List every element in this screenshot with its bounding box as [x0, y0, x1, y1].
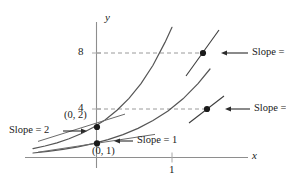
- curve-2exp: [33, 27, 172, 148]
- point-marker-slope-8: [200, 50, 206, 56]
- y-axis-label: y: [105, 12, 110, 23]
- annotation-slope-1: Slope = 1: [137, 135, 177, 146]
- leader-arrow-slope-4: [225, 107, 250, 112]
- point-marker-slope-4: [204, 106, 210, 112]
- plot-canvas: [0, 0, 286, 182]
- annotation-slope-4: Slope = 4: [254, 103, 286, 114]
- point-label-0-2: (0, 2): [64, 110, 87, 121]
- leader-arrow-slope-8: [221, 51, 248, 56]
- point-marker-0-2: [94, 124, 100, 130]
- annotation-slope-2: Slope = 2: [9, 125, 49, 136]
- exponential-graph-figure: y x 8 4 1 (0, 2) (0, 1) Slope = 8 Slope …: [0, 0, 286, 182]
- y-tick-label-8: 8: [78, 46, 84, 57]
- annotation-slope-8: Slope = 8: [252, 47, 286, 58]
- curve-exp: [33, 69, 210, 153]
- x-axis-label: x: [252, 150, 257, 161]
- x-tick-label-1: 1: [169, 164, 175, 175]
- point-label-0-1: (0, 1): [92, 146, 115, 157]
